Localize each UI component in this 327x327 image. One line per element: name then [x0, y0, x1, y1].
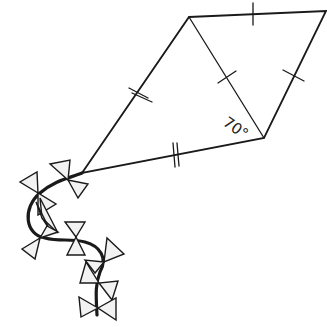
tail-bow — [22, 226, 58, 259]
kite-figure — [0, 0, 327, 327]
kite-diagram: 70° — [0, 0, 327, 327]
tick-mark — [218, 71, 236, 83]
kite-outline — [82, 11, 326, 173]
